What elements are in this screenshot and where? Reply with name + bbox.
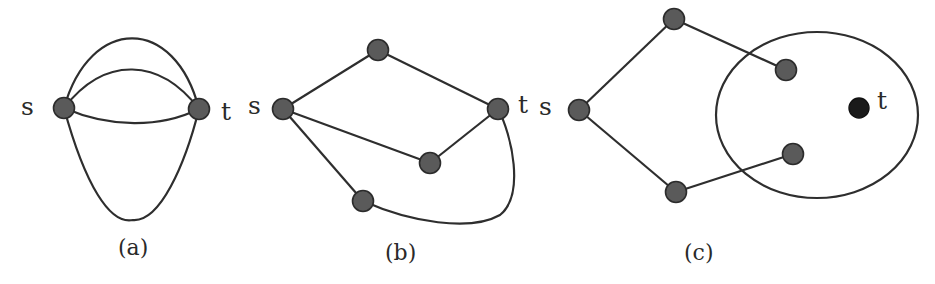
region-ellipse bbox=[716, 32, 918, 198]
node-a-s bbox=[54, 98, 75, 119]
label-c-t: t bbox=[877, 86, 887, 115]
node-c-t bbox=[849, 98, 869, 118]
node-b-bottom bbox=[353, 191, 374, 212]
edge-c-s-bottom bbox=[579, 110, 676, 192]
edge-c-top-inner bbox=[674, 19, 786, 70]
edge-a-inner-bottom bbox=[64, 108, 199, 123]
edge-c-s-top bbox=[579, 19, 674, 110]
label-c-s: s bbox=[539, 92, 552, 121]
panel-b: s t (b) bbox=[248, 40, 528, 266]
edge-b-s-top bbox=[283, 50, 378, 109]
label-b-t: t bbox=[518, 90, 528, 119]
node-c-inner-bottom bbox=[783, 144, 804, 165]
node-b-top bbox=[368, 40, 389, 61]
node-c-inner-top bbox=[776, 60, 797, 81]
label-a-t: t bbox=[221, 97, 231, 126]
node-c-top bbox=[664, 9, 685, 30]
node-b-s bbox=[273, 99, 294, 120]
edge-b-top-t bbox=[378, 50, 498, 109]
caption-a: (a) bbox=[118, 235, 148, 260]
figure-canvas: s t (a) s t (b) s t (c) bbox=[0, 0, 935, 284]
label-a-s: s bbox=[21, 92, 34, 121]
edge-c-bottom-inner bbox=[676, 154, 793, 192]
panel-a: s t (a) bbox=[21, 38, 231, 260]
node-a-t bbox=[189, 99, 210, 120]
caption-b: (b) bbox=[385, 240, 416, 265]
node-b-mid bbox=[420, 153, 441, 174]
edge-a-inner-top bbox=[64, 69, 199, 109]
edge-b-mid-t bbox=[430, 109, 498, 163]
node-c-s bbox=[569, 100, 590, 121]
node-b-t bbox=[488, 99, 509, 120]
panel-c: s t (c) bbox=[539, 9, 918, 266]
node-c-bottom bbox=[666, 182, 687, 203]
label-b-s: s bbox=[248, 91, 261, 120]
caption-c: (c) bbox=[684, 240, 714, 265]
edge-a-outer-top bbox=[64, 38, 199, 109]
edge-a-outer-bottom bbox=[64, 108, 199, 220]
